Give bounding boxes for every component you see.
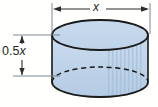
height-label-variable: x bbox=[19, 44, 25, 58]
diameter-label: x bbox=[93, 1, 99, 13]
height-label-prefix: 0.5 bbox=[2, 44, 19, 58]
height-arrow-top bbox=[19, 36, 24, 43]
cylinder-top-face bbox=[52, 20, 148, 50]
height-arrow-bottom bbox=[19, 68, 24, 75]
cylinder-diagram: x 0.5x bbox=[0, 0, 158, 107]
cylinder-top-ellipse bbox=[52, 20, 148, 50]
diameter-arrow-left bbox=[53, 6, 61, 12]
diameter-arrow-right bbox=[141, 6, 149, 12]
height-label: 0.5x bbox=[2, 45, 26, 58]
